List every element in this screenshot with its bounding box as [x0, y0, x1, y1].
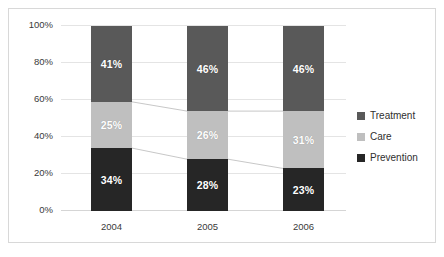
bar-segment-treatment-2005[interactable]: 46% [187, 26, 228, 111]
bar-segment-care-2004[interactable]: 25% [91, 102, 132, 148]
legend-item-treatment[interactable]: Treatment [357, 105, 439, 126]
y-axis-tick-label: 80% [34, 57, 53, 67]
bar-segment-value-label: 25% [101, 119, 122, 131]
x-axis-tick-label: 2004 [101, 222, 122, 232]
bar-segment-value-label: 31% [293, 134, 314, 146]
legend-item-label: Prevention [370, 153, 418, 163]
bar-segment-prevention-2006[interactable]: 23% [283, 168, 324, 211]
y-axis-tick-label: 100% [29, 20, 53, 30]
x-axis-tick-label: 2006 [293, 222, 314, 232]
bar-segment-treatment-2006[interactable]: 46% [283, 26, 324, 111]
y-axis-tick-label: 40% [34, 131, 53, 141]
bar-segment-value-label: 34% [101, 174, 122, 186]
bar-segment-value-label: 26% [197, 129, 218, 141]
bar-group-2004[interactable]: 41%25%34%2004 [91, 26, 132, 211]
segment-connector [228, 159, 283, 168]
legend-item-label: Care [370, 132, 392, 142]
legend-item-prevention[interactable]: Prevention [357, 147, 439, 168]
x-axis-tick-label: 2005 [197, 222, 218, 232]
bar-segment-care-2006[interactable]: 31% [283, 111, 324, 168]
legend-swatch-icon [357, 133, 365, 141]
segment-connector [132, 148, 187, 159]
bar-segment-value-label: 41% [101, 58, 122, 70]
plot-area: 0%20%40%60%80%100%41%25%34%200446%26%28%… [61, 26, 346, 211]
chart-frame: 0%20%40%60%80%100%41%25%34%200446%26%28%… [8, 8, 436, 243]
legend-swatch-icon [357, 154, 365, 162]
bar-group-2005[interactable]: 46%26%28%2005 [187, 26, 228, 211]
bar-segment-value-label: 46% [197, 63, 218, 75]
segment-connector [132, 102, 187, 111]
bar-segment-value-label: 28% [197, 179, 218, 191]
legend-item-label: Treatment [370, 111, 415, 121]
bar-segment-prevention-2004[interactable]: 34% [91, 148, 132, 211]
bar-segment-value-label: 23% [293, 184, 314, 196]
y-axis-tick-label: 60% [34, 94, 53, 104]
y-axis-tick-label: 0% [39, 205, 53, 215]
bar-group-2006[interactable]: 46%31%23%2006 [283, 26, 324, 211]
bar-segment-prevention-2005[interactable]: 28% [187, 159, 228, 211]
legend-swatch-icon [357, 112, 365, 120]
bar-segment-value-label: 46% [293, 63, 314, 75]
chart-legend: TreatmentCarePrevention [357, 105, 439, 168]
bar-segment-care-2005[interactable]: 26% [187, 111, 228, 159]
bar-segment-treatment-2004[interactable]: 41% [91, 26, 132, 102]
y-axis-tick-label: 20% [34, 168, 53, 178]
legend-item-care[interactable]: Care [357, 126, 439, 147]
